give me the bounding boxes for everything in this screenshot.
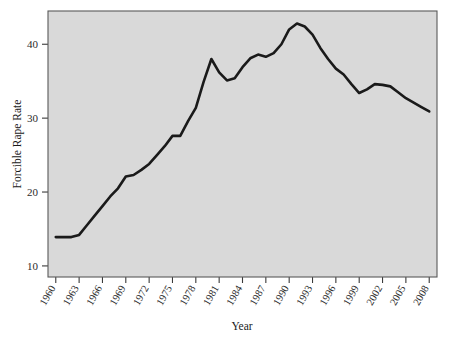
y-axis-title: Forcible Rape Rate — [11, 100, 24, 189]
chart-figure: 10203040 1960196319661969197219751978198… — [0, 0, 451, 341]
x-axis-title: Year — [231, 320, 252, 332]
y-tick-label: 20 — [27, 186, 39, 198]
plot-area-background — [48, 11, 437, 277]
forcible-rape-rate-line-chart: 10203040 1960196319661969197219751978198… — [0, 0, 451, 341]
y-tick-label: 10 — [27, 260, 39, 272]
y-tick-label: 30 — [27, 112, 39, 124]
y-tick-label: 40 — [27, 38, 39, 50]
